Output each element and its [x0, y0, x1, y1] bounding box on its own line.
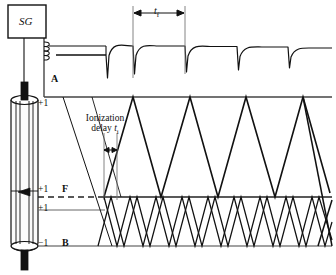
ionization-delay-annotation: Ionization delay ti — [72, 114, 138, 135]
ionization-delay-line2: delay — [91, 123, 112, 133]
signal-generator-label: SG — [19, 16, 32, 27]
canvas-background — [0, 0, 336, 275]
diagram-canvas — [0, 0, 336, 275]
bottom-electrode-pin — [21, 250, 28, 270]
level-label-front-plus-one: +1 — [38, 185, 49, 195]
ionization-delay-line1: Ionization — [86, 113, 125, 123]
period-subscript: f — [157, 11, 159, 19]
node-label-f: F — [62, 184, 68, 194]
period-annotation: tf — [154, 6, 159, 19]
top-electrode-pin — [21, 82, 28, 100]
tube-bottom-cap — [11, 242, 38, 251]
node-label-b: B — [62, 238, 69, 248]
level-label-top-plus-one: +1 — [38, 99, 49, 109]
timing-diagram-figure: SG A +1 +1 F +1 −1 B Ionization delay ti… — [0, 0, 336, 275]
discharge-tube-body — [11, 100, 38, 251]
node-label-a: A — [51, 74, 58, 84]
level-label-mid-plus-one: +1 — [38, 204, 49, 214]
ionization-delay-subscript: i — [117, 127, 119, 135]
level-label-bottom-minus-one: −1 — [38, 239, 49, 249]
